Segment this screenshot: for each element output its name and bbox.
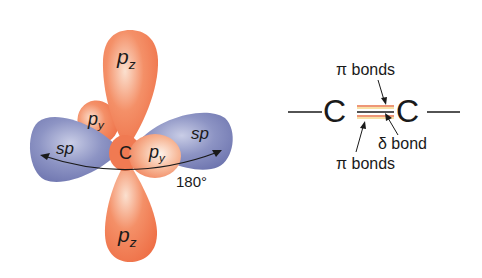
sp-left-label: sp xyxy=(56,140,74,157)
pz-bottom-label: pz xyxy=(118,224,137,245)
pi-bonds-bottom-label: π bonds xyxy=(336,156,395,172)
left-carbon-label: C xyxy=(323,95,346,127)
pi-bonds-top-label: π bonds xyxy=(336,62,395,78)
angle-label: 180° xyxy=(176,174,207,189)
pz-top-label: pz xyxy=(117,46,136,67)
py-front-label: py xyxy=(149,143,165,161)
carbon-center-label: C xyxy=(119,144,132,162)
right-carbon-label: C xyxy=(396,95,419,127)
sp-right-label: sp xyxy=(191,125,209,142)
sigma-bond-label: δ bond xyxy=(378,136,427,152)
py-back-label: py xyxy=(88,110,104,128)
